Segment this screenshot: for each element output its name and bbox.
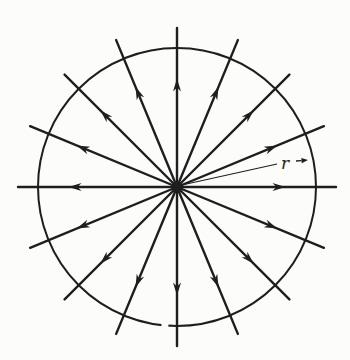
field-line bbox=[177, 187, 289, 299]
figure-page: r bbox=[0, 0, 350, 360]
field-line bbox=[65, 187, 177, 299]
field-line bbox=[65, 75, 177, 187]
circle-print-gap bbox=[161, 325, 168, 326]
field-line bbox=[177, 75, 289, 187]
radius-label: r bbox=[281, 153, 290, 173]
source-point bbox=[172, 182, 183, 193]
field-lines-figure: r bbox=[0, 0, 350, 360]
radius-arrow-head bbox=[301, 158, 308, 163]
